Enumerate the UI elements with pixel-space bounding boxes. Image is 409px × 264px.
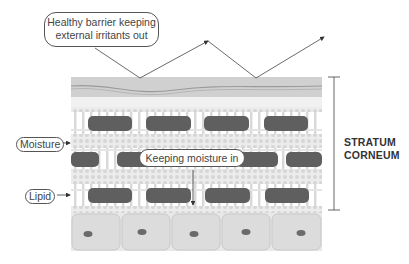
moisture-label: Moisture	[16, 137, 64, 152]
stratum-corneum-label: STRATUM CORNEUM	[344, 136, 400, 162]
corneum-label: CORNEUM	[344, 149, 400, 162]
lipid-label: Lipid	[25, 189, 55, 204]
stratum-label: STRATUM	[344, 136, 400, 149]
barrier-callout: Healthy barrier keeping external irritan…	[44, 12, 159, 47]
barrier-callout-line2: external irritants out	[45, 29, 158, 42]
stratum-corneum-bracket	[328, 77, 340, 210]
moisture-in-callout: Keeping moisture in	[139, 149, 245, 167]
living-cell-layer	[71, 213, 322, 251]
barrier-callout-line1: Healthy barrier keeping	[45, 16, 158, 29]
